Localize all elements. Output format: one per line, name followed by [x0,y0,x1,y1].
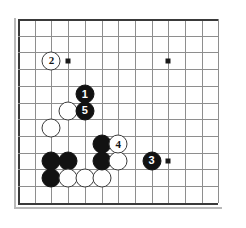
grid-line-vertical-8 [152,19,153,203]
star-point-upper-left [66,58,71,63]
stone-move-number: 4 [115,138,121,149]
grid-line-horizontal-11 [18,203,218,205]
move-stone-4[interactable]: 4 [109,135,128,154]
go-board-diagram: 12345 [0,0,246,228]
goban-grid[interactable]: 12345 [0,0,246,228]
grid-line-horizontal-5 [18,103,218,104]
grid-line-vertical-0 [18,19,20,203]
grid-line-horizontal-1 [18,36,218,37]
stone-move-number: 5 [82,105,88,116]
move-stone-5[interactable]: 5 [75,101,94,120]
grid-line-vertical-9 [168,19,169,203]
star-point-upper-right [166,58,171,63]
grid-line-vertical-7 [135,19,136,203]
stone-move-number: 2 [49,55,55,66]
star-point-lower-right [166,158,171,163]
move-stone-2[interactable]: 2 [42,51,61,70]
white-stone-plain-e[interactable] [92,168,111,187]
grid-line-vertical-6 [118,19,119,203]
board-edge-shadow-bottom [14,207,222,209]
grid-line-vertical-11 [202,19,203,203]
white-stone-plain-f[interactable] [109,151,128,170]
stone-move-number: 3 [149,155,155,166]
stone-move-number: 1 [82,88,88,99]
board-edge-shadow-left [14,18,16,208]
grid-line-vertical-12 [218,19,219,203]
grid-line-horizontal-0 [18,19,218,21]
move-stone-3[interactable]: 3 [142,151,161,170]
grid-line-horizontal-4 [18,86,218,87]
grid-line-vertical-1 [35,19,36,203]
grid-line-vertical-10 [185,19,186,203]
white-stone-plain-a[interactable] [42,118,61,137]
